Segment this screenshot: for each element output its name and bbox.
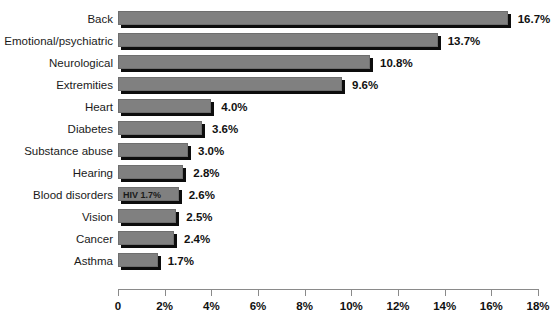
bar-value-label: 9.6% <box>352 77 378 93</box>
x-axis-tick-label: 12% <box>386 298 409 314</box>
x-axis-tick <box>118 289 119 296</box>
bar-container <box>118 143 191 160</box>
bar-value-label: 13.7% <box>448 33 481 49</box>
chart-row: Diabetes3.6% <box>0 121 560 143</box>
category-label: Vision <box>0 209 113 225</box>
bar-container <box>118 165 186 182</box>
bar-value-label: 2.4% <box>184 231 210 247</box>
bar-value-label: 16.7% <box>518 11 551 27</box>
x-axis-tick-label: 4% <box>203 298 220 314</box>
bar-container <box>118 33 441 50</box>
chart-row: Emotional/psychiatric13.7% <box>0 33 560 55</box>
x-axis-tick-label: 18% <box>526 298 549 314</box>
chart-row: Cancer2.4% <box>0 231 560 253</box>
bar-container <box>118 11 511 28</box>
x-axis-tick-label: 6% <box>250 298 267 314</box>
x-axis-tick <box>445 289 446 296</box>
x-axis-tick <box>305 289 306 296</box>
bar-container: HIV 1.7% <box>118 187 182 204</box>
x-axis-tick <box>211 289 212 296</box>
category-label: Back <box>0 11 113 27</box>
category-label: Asthma <box>0 253 113 269</box>
bar-container <box>118 77 345 94</box>
bar-value-label: 3.0% <box>198 143 224 159</box>
x-axis-tick <box>398 289 399 296</box>
bar-container <box>118 253 161 270</box>
bar <box>118 33 438 47</box>
chart-plot-area: Back16.7%Emotional/psychiatric13.7%Neuro… <box>0 0 560 280</box>
x-axis-tick <box>538 289 539 296</box>
x-axis-tick <box>258 289 259 296</box>
chart-row: Asthma1.7% <box>0 253 560 275</box>
bar <box>118 77 342 91</box>
bar-container <box>118 209 179 226</box>
bar-container <box>118 55 373 72</box>
x-axis-tick-label: 0 <box>115 298 121 314</box>
category-label: Extremities <box>0 77 113 93</box>
category-label: Blood disorders <box>0 187 113 203</box>
x-axis-tick-label: 16% <box>480 298 503 314</box>
x-axis-tick-label: 10% <box>340 298 363 314</box>
bar-value-label: 4.0% <box>221 99 247 115</box>
x-axis-line <box>118 289 538 290</box>
bar <box>118 121 202 135</box>
bar <box>118 55 370 69</box>
bar <box>118 11 508 25</box>
bar <box>118 253 158 267</box>
x-axis-tick <box>165 289 166 296</box>
chart-row: Heart4.0% <box>0 99 560 121</box>
bar-value-label: 3.6% <box>212 121 238 137</box>
bar-value-label: 2.5% <box>186 209 212 225</box>
x-axis-tick-label: 14% <box>433 298 456 314</box>
bar <box>118 209 176 223</box>
bar-container <box>118 99 214 116</box>
category-label: Emotional/psychiatric <box>0 33 113 49</box>
bar-chart: Back16.7%Emotional/psychiatric13.7%Neuro… <box>0 0 560 319</box>
category-label: Substance abuse <box>0 143 113 159</box>
chart-row: Extremities9.6% <box>0 77 560 99</box>
chart-row: Blood disordersHIV 1.7%2.6% <box>0 187 560 209</box>
bar-value-label: 10.8% <box>380 55 413 71</box>
x-axis-tick <box>491 289 492 296</box>
chart-row: Hearing2.8% <box>0 165 560 187</box>
bar-value-label: 2.6% <box>189 187 215 203</box>
bar-container <box>118 231 177 248</box>
bar <box>118 165 183 179</box>
bar: HIV 1.7% <box>118 187 179 201</box>
x-axis-tick <box>351 289 352 296</box>
chart-row: Back16.7% <box>0 11 560 33</box>
bar <box>118 99 211 113</box>
category-label: Hearing <box>0 165 113 181</box>
bar-value-label: 1.7% <box>168 253 194 269</box>
bar-annotation: HIV 1.7% <box>123 188 161 202</box>
x-axis-tick-label: 8% <box>296 298 313 314</box>
chart-row: Substance abuse3.0% <box>0 143 560 165</box>
chart-row: Neurological10.8% <box>0 55 560 77</box>
category-label: Diabetes <box>0 121 113 137</box>
bar-value-label: 2.8% <box>193 165 219 181</box>
category-label: Heart <box>0 99 113 115</box>
bar <box>118 143 188 157</box>
x-axis-tick-label: 2% <box>156 298 173 314</box>
category-label: Cancer <box>0 231 113 247</box>
bar-container <box>118 121 205 138</box>
category-label: Neurological <box>0 55 113 71</box>
bar <box>118 231 174 245</box>
chart-row: Vision2.5% <box>0 209 560 231</box>
